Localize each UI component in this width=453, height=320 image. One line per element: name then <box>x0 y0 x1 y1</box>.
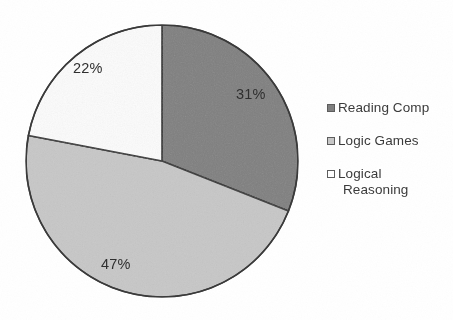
chart-legend: Reading Comp Logic Games LogicalReasonin… <box>327 100 451 215</box>
legend-item-logic-games[interactable]: Logic Games <box>327 133 451 149</box>
pie-label-logic-games: 47% <box>101 256 131 272</box>
legend-swatch-logic-games <box>327 137 335 145</box>
legend-swatch-logical-reasoning <box>327 170 335 178</box>
legend-item-reading-comp[interactable]: Reading Comp <box>327 100 451 116</box>
legend-label-logic-games: Logic Games <box>338 133 419 149</box>
pie-chart: 31% 47% 22% <box>0 0 320 320</box>
legend-label-logical-reasoning-line2: Reasoning <box>338 182 408 198</box>
legend-item-logical-reasoning[interactable]: LogicalReasoning <box>327 166 451 198</box>
pie-label-logical-reasoning: 22% <box>73 60 103 76</box>
legend-label-reading-comp: Reading Comp <box>338 100 429 116</box>
pie-label-reading-comp: 31% <box>236 86 266 102</box>
legend-swatch-reading-comp <box>327 104 335 112</box>
legend-label-logical-reasoning: LogicalReasoning <box>338 166 408 198</box>
legend-label-logical-reasoning-line1: Logical <box>338 166 381 181</box>
pie-chart-svg <box>0 0 320 320</box>
